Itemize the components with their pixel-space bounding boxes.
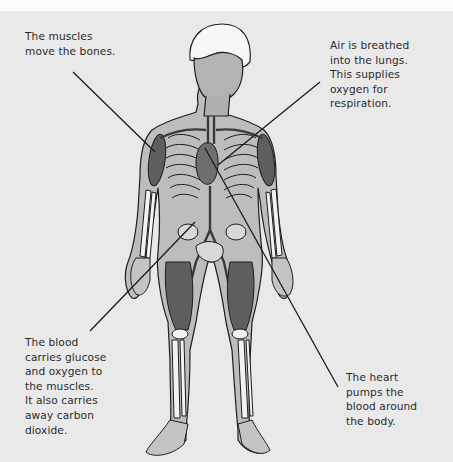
diagram-page: The muscles move the bones. Air is breat… bbox=[0, 0, 453, 462]
thigh-muscles bbox=[165, 262, 254, 330]
label-blood: The blood carries glucose and oxygen to … bbox=[25, 335, 106, 437]
leg-bones bbox=[172, 329, 253, 418]
neck bbox=[204, 94, 230, 116]
label-lungs: Air is breathed into the lungs. This sup… bbox=[330, 38, 409, 111]
heart bbox=[196, 143, 218, 185]
label-heart: The heart pumps the blood around the bod… bbox=[346, 370, 417, 428]
label-muscles: The muscles move the bones. bbox=[25, 29, 116, 58]
leader-line-muscles bbox=[73, 72, 155, 152]
feet bbox=[146, 420, 270, 455]
